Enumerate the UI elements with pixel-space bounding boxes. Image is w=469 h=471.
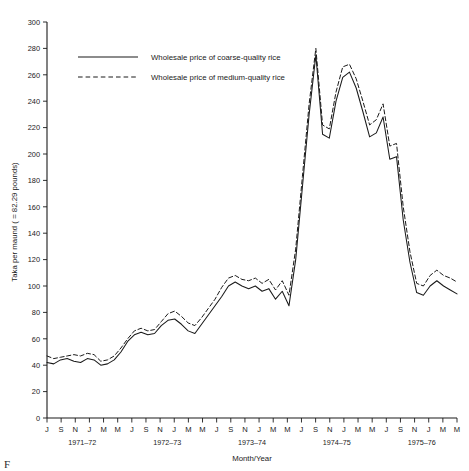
svg-text:1974–75: 1974–75: [323, 438, 351, 447]
svg-text:100: 100: [28, 282, 40, 291]
y-axis: 0204060801001201401601802002202402602803…: [28, 18, 47, 423]
svg-text:M: M: [100, 425, 106, 434]
svg-text:N: N: [242, 425, 247, 434]
svg-text:120: 120: [28, 255, 40, 264]
svg-text:1972–73: 1972–73: [153, 438, 181, 447]
svg-text:M: M: [185, 425, 191, 434]
svg-text:J: J: [384, 425, 388, 434]
svg-text:S: S: [143, 425, 148, 434]
svg-text:M: M: [440, 425, 446, 434]
svg-text:J: J: [300, 425, 304, 434]
svg-text:200: 200: [28, 150, 40, 159]
chart-legend: Wholesale price of coarse-quality riceWh…: [78, 53, 285, 82]
svg-text:J: J: [257, 425, 261, 434]
svg-text:J: J: [45, 425, 49, 434]
svg-text:S: S: [59, 425, 64, 434]
svg-text:J: J: [172, 425, 176, 434]
svg-text:220: 220: [28, 123, 40, 132]
svg-text:M: M: [369, 425, 375, 434]
svg-text:M: M: [199, 425, 205, 434]
y-axis-title: Taka per maund ( = 82.29 pounds): [10, 162, 19, 282]
svg-text:0: 0: [36, 414, 40, 423]
svg-text:80: 80: [32, 308, 40, 317]
svg-text:M: M: [284, 425, 290, 434]
svg-text:280: 280: [28, 44, 40, 53]
svg-text:140: 140: [28, 229, 40, 238]
svg-text:J: J: [88, 425, 92, 434]
figure-corner-mark: F: [4, 458, 10, 470]
chart-figure: 0204060801001201401601802002202402602803…: [0, 0, 469, 471]
svg-text:S: S: [228, 425, 233, 434]
svg-text:60: 60: [32, 335, 40, 344]
svg-text:J: J: [342, 425, 346, 434]
svg-text:260: 260: [28, 71, 40, 80]
svg-text:240: 240: [28, 97, 40, 106]
svg-text:1973–74: 1973–74: [238, 438, 266, 447]
svg-text:N: N: [73, 425, 78, 434]
svg-text:40: 40: [32, 361, 40, 370]
x-axis-title: Month/Year: [232, 454, 272, 463]
svg-text:300: 300: [28, 18, 40, 27]
svg-text:160: 160: [28, 203, 40, 212]
svg-text:N: N: [327, 425, 332, 434]
svg-text:M: M: [115, 425, 121, 434]
svg-text:1975–76: 1975–76: [408, 438, 436, 447]
x-axis: JSNJMMJSNJMMJSNJMMJSNJMMJSNJMM1971–72197…: [45, 418, 460, 447]
svg-text:20: 20: [32, 387, 40, 396]
svg-text:Wholesale price of medium-qual: Wholesale price of medium-quality rice: [151, 73, 285, 82]
rice-price-line-chart: 0204060801001201401601802002202402602803…: [0, 0, 469, 471]
svg-text:M: M: [355, 425, 361, 434]
svg-text:N: N: [157, 425, 162, 434]
svg-text:M: M: [454, 425, 460, 434]
svg-text:S: S: [398, 425, 403, 434]
svg-text:M: M: [270, 425, 276, 434]
series-lines: [47, 48, 457, 365]
svg-text:Wholesale price of coarse-qual: Wholesale price of coarse-quality rice: [151, 53, 281, 62]
svg-text:1971–72: 1971–72: [68, 438, 96, 447]
svg-text:N: N: [412, 425, 417, 434]
svg-text:180: 180: [28, 176, 40, 185]
svg-text:J: J: [427, 425, 431, 434]
svg-text:J: J: [130, 425, 134, 434]
svg-text:J: J: [215, 425, 219, 434]
svg-text:S: S: [313, 425, 318, 434]
